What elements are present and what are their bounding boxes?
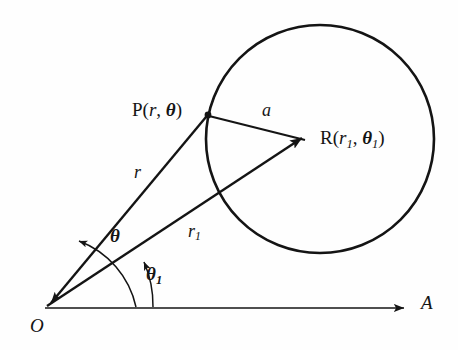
point-label-R-sep: , [353, 127, 363, 148]
point-label-P-prefix: P( [132, 99, 149, 120]
point-label-R-var2: θ [362, 127, 372, 148]
segment-r1-line [47, 138, 302, 306]
angle-label-theta1: θ1 [146, 264, 162, 286]
segment-label-r1-sub: 1 [195, 229, 201, 243]
angle-label-theta1-sub: 1 [156, 273, 162, 287]
angle-label-theta: θ [110, 226, 120, 245]
segment-label-a: a [262, 101, 271, 119]
point-label-P-suffix: ) [176, 99, 182, 120]
point-P-marker [205, 112, 212, 119]
segment-r-line [51, 117, 206, 303]
angle-label-theta1-var: θ [146, 263, 156, 284]
point-label-R-suffix: ) [378, 127, 384, 148]
origin-label-O: O [30, 316, 44, 335]
segment-label-r1-var: r [188, 221, 195, 241]
point-label-P-var2: θ [166, 99, 176, 120]
point-label-R: R(r1, θ1) [320, 128, 385, 150]
point-label-R-prefix: R( [320, 127, 339, 148]
angle-arc-theta [79, 241, 136, 307]
segment-label-r: r [134, 163, 141, 181]
segment-a-line [209, 116, 305, 140]
segment-label-r1: r1 [188, 222, 201, 243]
diagram-canvas [0, 0, 458, 350]
point-label-P: P(r, θ) [132, 100, 182, 119]
point-label-P-sep: , [156, 99, 166, 120]
polar-circle-diagram: P(r, θ) R(r1, θ1) r r1 a θ θ1 A O [0, 0, 458, 350]
axis-label-A: A [421, 293, 433, 312]
